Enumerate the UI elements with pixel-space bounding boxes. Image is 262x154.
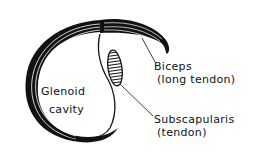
biceps-leader-line [142,38,155,62]
subscapularis-leader-line [120,84,153,116]
biceps-label-line2: (long tendon) [157,74,235,86]
subscapularis-label-line1: Subscapularis [154,114,234,126]
glenoid-label-line2: cavity [49,104,84,116]
biceps-tendon [100,19,169,54]
glenoid-label-line1: Glenoid [41,86,85,98]
subscapularis-label-line2: (tendon) [157,127,207,139]
biceps-label-line1: Biceps [154,61,192,73]
labrum-rim [25,20,164,142]
